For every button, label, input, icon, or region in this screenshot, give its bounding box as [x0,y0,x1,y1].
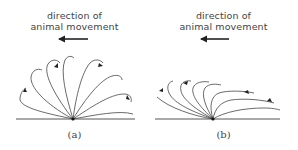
panel-b: direction of animal movement (b) [149,0,298,150]
origin-point [211,117,214,120]
direction-arrow-left-icon [58,36,88,43]
loops-b [157,81,280,119]
panel-label-b: (b) [149,129,298,140]
origin-point [71,117,74,120]
panel-a: direction of animal movement [0,0,149,150]
loop-fan-diagram-b [149,0,298,150]
loops-a [20,56,133,119]
direction-arrow-left-icon [200,36,229,43]
panel-label-a: (a) [0,129,149,140]
loop-fan-diagram-a [0,0,149,150]
